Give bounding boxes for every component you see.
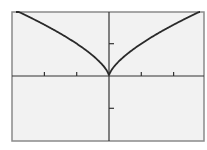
function-plot xyxy=(0,0,207,150)
